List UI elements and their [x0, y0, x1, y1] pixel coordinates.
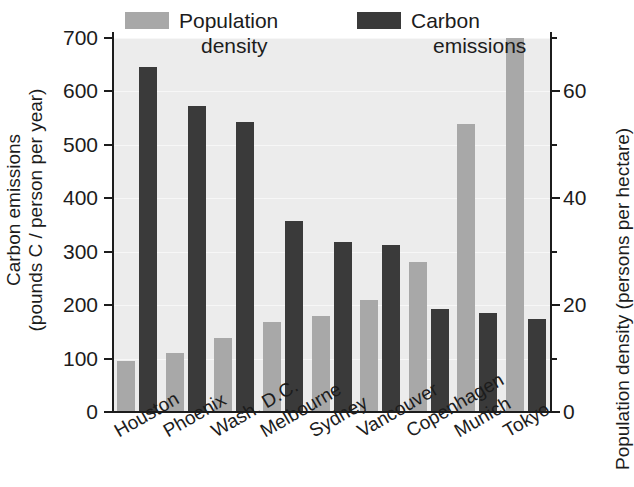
right-axis-tick-label-text: 20 — [563, 294, 586, 315]
legend-label-line1: Carbon — [411, 9, 480, 32]
legend-label-line1: Population — [179, 9, 278, 32]
left-axis-tick-label-text: 600 — [63, 80, 98, 101]
bar-carbon-emissions — [139, 67, 157, 412]
left-axis-tick-label-text: 200 — [63, 294, 98, 315]
left-axis-title-line1: Carbon emissions — [2, 18, 25, 402]
dark-gray-swatch — [357, 12, 401, 29]
bar-population-density — [457, 124, 475, 413]
right-axis-tick-label-text: 60 — [563, 80, 586, 101]
bar-population-density — [506, 38, 524, 412]
right-axis-tick — [552, 197, 560, 199]
right-axis-tick — [552, 90, 560, 92]
left-axis-tick — [104, 90, 112, 92]
right-axis-tick-label-text: 0 — [563, 401, 575, 422]
left-axis-title-line2: (pounds C / person per year) — [24, 18, 47, 402]
right-axis-tick — [552, 411, 560, 413]
left-axis-tick-label-text: 500 — [63, 134, 98, 155]
left-axis-tick-label-text: 100 — [63, 348, 98, 369]
legend-label: Populationdensity — [179, 8, 278, 58]
bar-carbon-emissions — [188, 106, 206, 412]
left-axis-tick — [104, 37, 112, 39]
light-gray-swatch — [125, 12, 169, 29]
legend-label: Carbonemissions — [411, 8, 526, 58]
left-axis-tick — [104, 251, 112, 253]
left-axis-tick-label-text: 0 — [86, 401, 98, 422]
left-axis-tick — [104, 197, 112, 199]
bar-carbon-emissions — [382, 245, 400, 412]
gridline — [113, 252, 550, 253]
right-axis-minor-tick — [552, 251, 557, 253]
gridline — [113, 145, 550, 146]
plot-area — [113, 38, 550, 412]
bar-carbon-emissions — [236, 122, 254, 412]
left-axis-tick — [104, 411, 112, 413]
bar-population-density — [117, 361, 135, 412]
legend-label-line2: emissions — [433, 33, 526, 58]
left-axis-tick-label-text: 700 — [63, 27, 98, 48]
right-axis-minor-tick — [552, 358, 557, 360]
left-axis-tick — [104, 304, 112, 306]
gridline — [113, 198, 550, 199]
right-axis-tick-label-text: 40 — [563, 187, 586, 208]
left-axis-line — [112, 32, 114, 412]
bar-carbon-emissions — [528, 319, 546, 413]
left-axis-tick — [104, 358, 112, 360]
right-axis-minor-tick — [552, 144, 557, 146]
left-axis-tick-label-text: 300 — [63, 241, 98, 262]
right-axis-tick — [552, 304, 560, 306]
left-axis-tick — [104, 144, 112, 146]
right-axis-minor-tick — [552, 37, 557, 39]
left-axis-tick-label-text: 400 — [63, 187, 98, 208]
right-axis-title: Population density (persons per hectare) — [612, 128, 634, 470]
gridline — [113, 305, 550, 306]
gridline — [113, 91, 550, 92]
legend-label-line2: density — [201, 33, 278, 58]
right-axis-line — [550, 32, 552, 412]
